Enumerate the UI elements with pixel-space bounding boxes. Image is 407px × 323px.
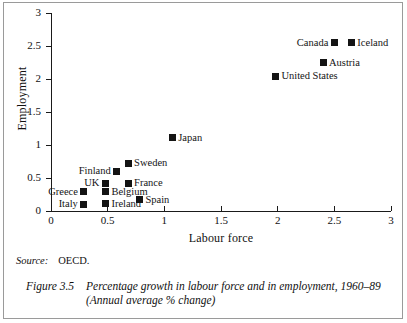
data-point-marker bbox=[169, 134, 176, 141]
data-point-marker bbox=[125, 160, 132, 167]
data-point-label: Greece bbox=[48, 187, 78, 198]
data-point-marker bbox=[102, 180, 109, 187]
data-point-label: Sweden bbox=[134, 158, 167, 169]
x-tick-label: 2.5 bbox=[319, 215, 349, 226]
figure-frame: 00.511.522.53 00.511.522.53 CanadaIcelan… bbox=[3, 2, 403, 319]
data-point-label: Japan bbox=[178, 133, 202, 144]
data-point-marker bbox=[272, 73, 279, 80]
data-point-label: Iceland bbox=[357, 38, 388, 49]
x-tick bbox=[51, 206, 52, 211]
caption-text: Percentage growth in labour force and in… bbox=[86, 279, 386, 307]
x-axis-line bbox=[51, 211, 391, 212]
data-point-label: Austria bbox=[329, 58, 360, 69]
y-tick bbox=[46, 79, 51, 80]
data-point-label: Finland bbox=[79, 166, 111, 177]
data-point-marker bbox=[113, 168, 120, 175]
y-tick bbox=[46, 178, 51, 179]
source-value: OECD. bbox=[58, 255, 89, 266]
x-axis-title: Labour force bbox=[51, 231, 391, 246]
x-tick-label: 2 bbox=[263, 215, 293, 226]
x-tick-label: 0 bbox=[36, 215, 66, 226]
source-line: Source:OECD. bbox=[16, 255, 89, 266]
data-point-marker bbox=[331, 39, 338, 46]
data-point-label: United States bbox=[281, 71, 337, 82]
y-tick bbox=[46, 145, 51, 146]
y-axis-line bbox=[51, 13, 52, 212]
y-tick bbox=[46, 13, 51, 14]
data-point-marker bbox=[348, 39, 355, 46]
data-point-label: Italy bbox=[59, 199, 78, 210]
data-point-label: Spain bbox=[145, 195, 169, 206]
x-tick-label: 3 bbox=[376, 215, 406, 226]
x-tick bbox=[277, 206, 278, 211]
data-point-label: UK bbox=[84, 178, 99, 189]
y-axis-title: Employment bbox=[15, 49, 30, 149]
x-tick-label: 1 bbox=[149, 215, 179, 226]
caption-number: Figure 3.5 bbox=[26, 279, 74, 293]
source-label: Source: bbox=[16, 255, 48, 266]
data-point-marker bbox=[80, 201, 87, 208]
x-tick-label: 0.5 bbox=[93, 215, 123, 226]
figure-caption: Figure 3.5 Percentage growth in labour f… bbox=[26, 279, 386, 307]
x-tick-label: 1.5 bbox=[206, 215, 236, 226]
y-tick-label: 0.5 bbox=[11, 172, 41, 183]
data-point-label: Ireland bbox=[111, 199, 141, 210]
x-tick bbox=[334, 206, 335, 211]
data-point-marker bbox=[320, 59, 327, 66]
data-point-marker bbox=[102, 188, 109, 195]
data-point-marker bbox=[80, 188, 87, 195]
data-point-label: Canada bbox=[297, 38, 329, 49]
data-point-marker bbox=[102, 200, 109, 207]
x-tick bbox=[391, 206, 392, 211]
scatter-plot: 00.511.522.53 00.511.522.53 CanadaIcelan… bbox=[4, 3, 404, 247]
y-tick-label: 3 bbox=[11, 7, 41, 18]
y-tick bbox=[46, 46, 51, 47]
x-tick bbox=[164, 206, 165, 211]
y-tick bbox=[46, 112, 51, 113]
x-tick bbox=[221, 206, 222, 211]
